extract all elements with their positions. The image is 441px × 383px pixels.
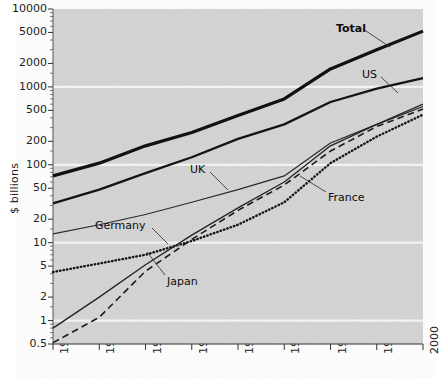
series-label-us: US: [362, 69, 377, 80]
series-label-total: Total: [336, 23, 366, 34]
series-label-germany: Germany: [95, 220, 146, 231]
series-label-uk: UK: [190, 164, 205, 175]
series-label-france: France: [328, 192, 365, 203]
series-label-japan: Japan: [167, 276, 198, 287]
